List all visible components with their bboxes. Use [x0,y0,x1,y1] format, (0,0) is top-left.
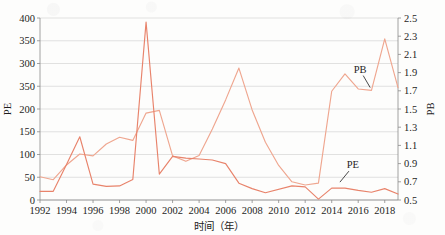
x-axis-title: 时间（年） [194,220,244,232]
y-tick-label: 400 [19,13,35,24]
y2-tick-label: 0.9 [404,158,417,169]
x-tick-label: 2018 [374,205,395,216]
leader-line-pb [363,76,370,88]
y-tick-label: 50 [25,172,36,183]
x-tick-label: 1994 [56,205,78,216]
y2-tick-label: 2.3 [404,31,417,42]
x-tick-label: 2012 [295,205,316,216]
right-axis-group: 0.50.70.91.11.31.51.71.92.12.32.5 [398,13,417,206]
y2-tick-label: 0.5 [404,195,417,206]
annotations-group: PBPE [340,64,370,183]
series-label-pe: PE [347,159,359,170]
x-tick-label: 2006 [215,205,236,216]
y2-tick-label: 0.7 [404,176,417,187]
x-tick-label: 2002 [162,205,183,216]
gridlines-group [40,18,398,200]
x-tick-label: 2004 [189,205,211,216]
x-tick-label: 2000 [136,205,157,216]
series-line-pb [40,39,398,185]
y-tick-label: 350 [19,81,35,92]
y2-axis-title-pb: PB [425,103,436,116]
x-tick-label: 2008 [242,205,263,216]
left-axis-group: 050100150200350300350400 [19,13,40,206]
y-tick-label: 100 [19,149,35,160]
x-tick-label: 1992 [30,205,51,216]
y2-tick-label: 2.1 [404,49,417,60]
y2-tick-label: 1.3 [404,122,417,133]
x-tick-label: 2016 [348,205,369,216]
y2-tick-label: 1.9 [404,67,417,78]
series-line-pe [40,22,398,199]
dual-axis-line-chart: 050100150200350300350400 0.50.70.91.11.3… [0,0,445,235]
x-tick-label: 2014 [321,205,343,216]
y2-tick-label: 1.5 [404,104,417,115]
y2-tick-label: 2.5 [404,13,417,24]
y2-tick-label: 1.1 [404,140,417,151]
x-axis-group: 1992199419961998200020022004200620082010… [30,200,399,216]
x-tick-label: 1998 [109,205,130,216]
y-tick-label: 300 [19,58,35,69]
y2-tick-label: 1.7 [404,85,417,96]
leader-line-pe [340,171,349,182]
chart-figure: 050100150200350300350400 0.50.70.91.11.3… [0,0,445,235]
y-tick-label: 200 [19,104,35,115]
x-tick-label: 2010 [268,205,289,216]
series-label-pb: PB [354,64,367,75]
y-tick-label: 150 [19,126,35,137]
y-tick-label: 350 [19,35,35,46]
series-group [40,22,398,199]
x-tick-label: 1996 [83,205,104,216]
y-axis-title-pe: PE [2,103,13,115]
y-tick-label: 0 [30,195,35,206]
